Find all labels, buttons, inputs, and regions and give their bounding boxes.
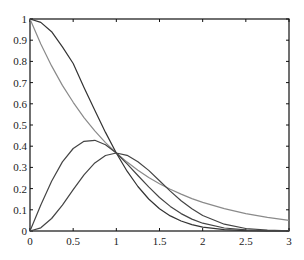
y-tick-label: 0.2 (13, 183, 27, 195)
x-tick-label: 0.5 (66, 235, 80, 247)
series-line-decay-gray (30, 19, 289, 220)
data-series (30, 19, 289, 231)
x-tick-label: 3 (286, 235, 292, 247)
axis-ticks (30, 19, 289, 231)
y-tick-label: 0.5 (13, 119, 27, 131)
y-tick-label: 0.6 (13, 98, 27, 110)
y-tick-label: 0.4 (13, 140, 27, 152)
y-tick-label: 0.8 (13, 55, 27, 67)
x-tick-label: 2 (200, 235, 206, 247)
series-line-rise-late (30, 153, 289, 231)
y-tick-label: 1 (22, 13, 28, 25)
x-tick-label: 0 (27, 235, 33, 247)
y-tick-label: 0.1 (13, 204, 27, 216)
y-tick-label: 0.7 (13, 77, 27, 89)
x-tick-label: 1 (114, 235, 120, 247)
series-line-decay-dark (30, 19, 289, 231)
x-tick-label: 1.5 (153, 235, 167, 247)
y-tick-label: 0 (22, 225, 28, 237)
y-tick-label: 0.9 (13, 34, 27, 46)
x-axis-tick-labels: 00.511.522.53 (27, 235, 292, 247)
x-tick-label: 2.5 (239, 235, 253, 247)
y-tick-label: 0.3 (13, 161, 27, 173)
line-chart: 00.511.522.53 00.10.20.30.40.50.60.70.80… (0, 0, 304, 260)
series-line-rise-early (30, 140, 289, 231)
axes-frame (30, 19, 289, 231)
plot-area (30, 19, 289, 231)
y-axis-tick-labels: 00.10.20.30.40.50.60.70.80.91 (13, 13, 27, 237)
